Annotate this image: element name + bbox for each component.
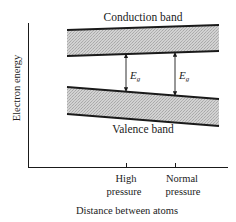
gap-label-1-sub: g <box>137 75 141 83</box>
tick-label-normal-line2: pressure <box>166 186 201 197</box>
band-diagram: Conduction band Valence band Eg Eg High … <box>0 0 236 222</box>
y-axis-label: Electron energy <box>11 54 22 121</box>
tick-label-normal-line1: Normal <box>166 173 198 184</box>
valence-band-label: Valence band <box>112 123 174 135</box>
gap-label-1: Eg <box>129 69 141 83</box>
tick-label-high-line2: pressure <box>107 186 142 197</box>
gap-label-2: Eg <box>178 69 190 83</box>
gap-label-2-sub: g <box>186 75 190 83</box>
x-axis-label: Distance between atoms <box>76 205 178 216</box>
conduction-band-label: Conduction band <box>104 11 183 23</box>
tick-label-high-line1: High <box>116 173 138 184</box>
